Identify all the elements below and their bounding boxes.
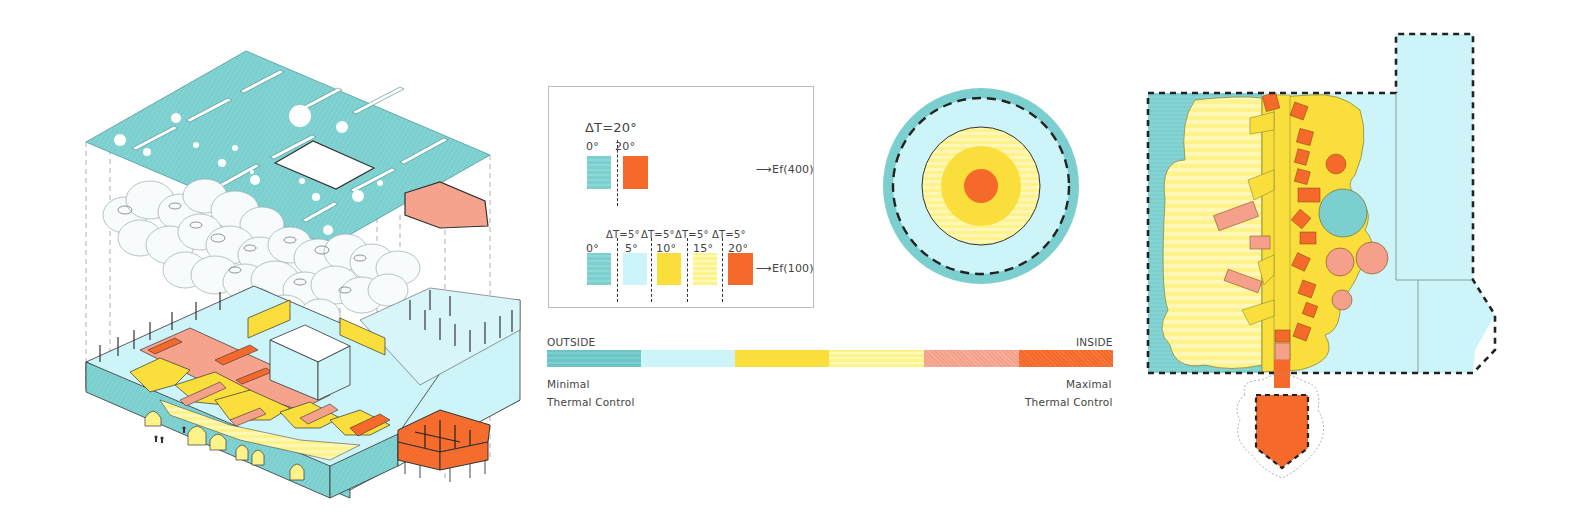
divider-dashed-top bbox=[617, 140, 618, 206]
scale-segment-light-blue bbox=[641, 350, 735, 367]
result-ef400: ⟶Ef(400) bbox=[756, 163, 814, 176]
scale-label-inside: INSIDE bbox=[1076, 336, 1113, 348]
scale-caption-min-1: Minimal bbox=[547, 378, 590, 390]
result-ef100: ⟶Ef(100) bbox=[756, 262, 814, 275]
divider-dashed-3 bbox=[687, 238, 688, 302]
delta-label-3: ΔT=5° bbox=[675, 229, 709, 240]
swatch-light-blue bbox=[623, 253, 647, 285]
divider-dashed-1 bbox=[617, 238, 618, 302]
arrow-right-icon: ⟶ bbox=[756, 163, 772, 176]
swatch-light-yellow bbox=[693, 253, 717, 285]
scale-caption-max-1: Maximal bbox=[1066, 378, 1112, 390]
delta-label-1: ΔT=5° bbox=[606, 229, 640, 240]
swatch-teal bbox=[587, 253, 611, 285]
scale-caption-min-2: Thermal Control bbox=[547, 396, 635, 408]
swatch-yellow bbox=[657, 253, 681, 285]
divider-dashed-4 bbox=[722, 238, 723, 302]
scale-label-outside: OUTSIDE bbox=[547, 336, 595, 348]
swatch-orange-20 bbox=[623, 156, 648, 189]
scale-segment-salmon bbox=[924, 350, 1019, 367]
swatch-orange bbox=[728, 253, 753, 285]
scale-segment-teal bbox=[547, 350, 641, 367]
scale-segment-orange bbox=[1019, 350, 1113, 367]
swatch-teal-0 bbox=[587, 156, 611, 189]
delta-label-2: ΔT=5° bbox=[641, 229, 675, 240]
annex-roof-piece bbox=[405, 182, 488, 228]
scale-segment-yellow bbox=[735, 350, 829, 367]
scale-caption-max-2: Thermal Control bbox=[1025, 396, 1113, 408]
delta-t-20-label: ΔT=20° bbox=[585, 120, 637, 135]
swatch-label-0: 0° bbox=[586, 140, 599, 153]
divider-dashed-2 bbox=[651, 238, 652, 302]
delta-label-4: ΔT=5° bbox=[712, 229, 746, 240]
swatch-label-20: 20° bbox=[615, 140, 635, 153]
arrow-right-icon: ⟶ bbox=[756, 262, 772, 275]
scale-segment-light-yellow bbox=[829, 350, 924, 367]
